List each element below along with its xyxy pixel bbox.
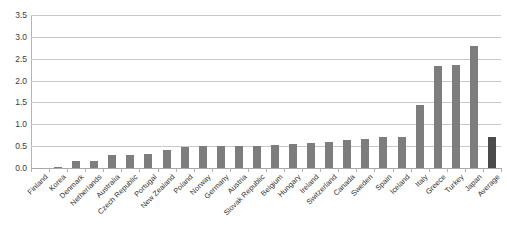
bar-slot	[320, 15, 338, 168]
bar-slot	[483, 15, 501, 168]
bar[interactable]	[144, 154, 152, 168]
y-axis-tick-label: 1.0	[15, 120, 27, 129]
bar[interactable]	[90, 161, 98, 168]
bar[interactable]	[126, 155, 134, 168]
bar[interactable]	[72, 161, 80, 168]
x-axis-tick	[284, 168, 285, 172]
x-axis-tick	[212, 168, 213, 172]
bar[interactable]	[361, 139, 369, 168]
x-axis-tick	[230, 168, 231, 172]
x-axis-labels: FinlandKoreaDenmarkNetherlandsAustraliaC…	[31, 173, 501, 240]
bar-slot	[103, 15, 121, 168]
bar-slot	[230, 15, 248, 168]
x-axis-tick	[158, 168, 159, 172]
bar-slot	[356, 15, 374, 168]
bar[interactable]	[488, 137, 496, 168]
x-axis-tick	[501, 168, 502, 172]
bar-slot	[139, 15, 157, 168]
bar-chart: 0.00.51.01.52.02.53.03.5 FinlandKoreaDen…	[0, 0, 507, 240]
y-axis-tick-label: 0.0	[15, 164, 27, 173]
y-axis-tick-label: 3.5	[15, 11, 27, 20]
x-axis-tick	[356, 168, 357, 172]
x-axis-tick	[483, 168, 484, 172]
x-axis-tick	[465, 168, 466, 172]
x-axis-tick	[302, 168, 303, 172]
x-axis-tick	[248, 168, 249, 172]
bar[interactable]	[343, 140, 351, 168]
x-axis-tick	[266, 168, 267, 172]
x-axis-tick	[67, 168, 68, 172]
bar-slot	[266, 15, 284, 168]
bar[interactable]	[307, 143, 315, 168]
bar[interactable]	[217, 146, 225, 168]
bar-slot	[429, 15, 447, 168]
bar[interactable]	[108, 155, 116, 168]
x-axis-tick	[429, 168, 430, 172]
bar[interactable]	[398, 137, 406, 168]
x-axis-tick	[374, 168, 375, 172]
bar-slot	[121, 15, 139, 168]
bar[interactable]	[416, 105, 424, 168]
y-axis-tick-label: 2.0	[15, 76, 27, 85]
bar[interactable]	[379, 137, 387, 168]
bar-slot	[302, 15, 320, 168]
bar[interactable]	[163, 150, 171, 168]
bar[interactable]	[199, 146, 207, 168]
bar-slot	[49, 15, 67, 168]
x-axis-tick	[447, 168, 448, 172]
bar-slot	[465, 15, 483, 168]
x-axis-tick	[320, 168, 321, 172]
plot-area: 0.00.51.01.52.02.53.03.5	[31, 15, 501, 168]
x-axis-category-label: Turkey	[444, 173, 465, 194]
bar[interactable]	[181, 147, 189, 168]
bar-slot	[67, 15, 85, 168]
y-axis-tick-label: 1.5	[15, 98, 27, 107]
x-axis-tick	[338, 168, 339, 172]
x-axis-tick	[121, 168, 122, 172]
bar[interactable]	[470, 46, 478, 168]
bar[interactable]	[289, 144, 297, 168]
y-axis-tick-label: 3.0	[15, 33, 27, 42]
bar[interactable]	[325, 142, 333, 168]
bar[interactable]	[235, 146, 243, 168]
x-axis-tick	[393, 168, 394, 172]
bar-slot	[338, 15, 356, 168]
bar-slot	[158, 15, 176, 168]
x-axis-tick	[194, 168, 195, 172]
bar[interactable]	[271, 145, 279, 168]
bar-slot	[393, 15, 411, 168]
x-axis-category-label: Finland	[26, 173, 49, 196]
y-axis-tick-label: 0.5	[15, 142, 27, 151]
x-axis-tick	[31, 168, 32, 172]
bar-slot	[212, 15, 230, 168]
bars-layer	[31, 15, 501, 168]
bar-slot	[411, 15, 429, 168]
x-axis-tick	[176, 168, 177, 172]
bar-slot	[176, 15, 194, 168]
x-axis-tick	[411, 168, 412, 172]
x-axis-tick	[103, 168, 104, 172]
x-axis-tick	[139, 168, 140, 172]
y-axis-tick-label: 2.5	[15, 54, 27, 63]
bar-slot	[248, 15, 266, 168]
bar-slot	[374, 15, 392, 168]
bar-slot	[284, 15, 302, 168]
bar[interactable]	[253, 146, 261, 168]
bar-slot	[85, 15, 103, 168]
x-axis-tick	[85, 168, 86, 172]
bar-slot	[447, 15, 465, 168]
bar[interactable]	[452, 65, 460, 168]
x-axis-tick	[49, 168, 50, 172]
bar-slot	[194, 15, 212, 168]
bar[interactable]	[434, 66, 442, 168]
bar-slot	[31, 15, 49, 168]
